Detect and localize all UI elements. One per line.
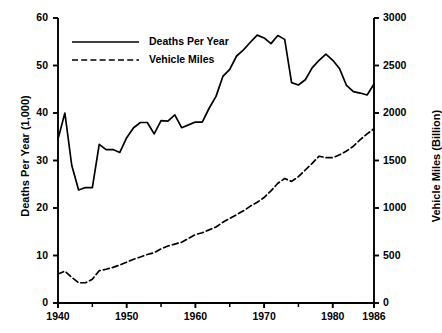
right-axis-tick-label: 0 [383, 296, 427, 308]
right-axis-tick-label: 1000 [383, 201, 427, 213]
legend-label-1: Deaths Per Year [149, 35, 229, 47]
left-axis-tick-label: 50 [0, 59, 48, 71]
left-axis-tick-label: 20 [0, 201, 48, 213]
right-axis-title: Vehicle Miles (Billion) [430, 81, 442, 251]
series-group [58, 35, 374, 283]
x-axis-tick-label: 1970 [238, 310, 290, 322]
left-axis-tick-label: 40 [0, 106, 48, 118]
series-line-2 [58, 129, 374, 283]
right-axis-tick-label: 2000 [383, 106, 427, 118]
right-axis-tick-label: 2500 [383, 59, 427, 71]
left-axis-tick-label: 10 [0, 249, 48, 261]
right-axis-tick-label: 3000 [383, 11, 427, 23]
left-axis-tick-label: 30 [0, 154, 48, 166]
series-line-1 [58, 35, 374, 190]
axes-group [53, 18, 379, 308]
x-axis-tick-label: 1950 [101, 310, 153, 322]
x-axis-tick-label: 1986 [348, 310, 400, 322]
right-axis-tick-label: 500 [383, 249, 427, 261]
x-axis-tick-label: 1960 [169, 310, 221, 322]
left-axis-tick-label: 60 [0, 11, 48, 23]
right-axis-tick-label: 1500 [383, 154, 427, 166]
legend-label-2: Vehicle Miles [149, 53, 214, 65]
left-axis-tick-label: 0 [0, 296, 48, 308]
legend-lines [72, 42, 139, 60]
x-axis-tick-label: 1940 [32, 310, 84, 322]
